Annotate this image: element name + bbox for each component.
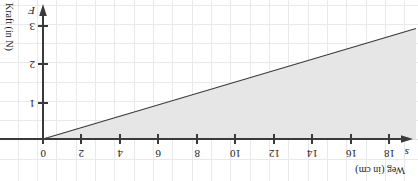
x-axis-variable-label: s (405, 147, 409, 158)
x-tick-label-10: 10 (230, 148, 241, 159)
x-tick-label-18: 18 (384, 148, 395, 159)
y-tick-label-2: 2 (30, 59, 36, 70)
y-axis-variable-label: F (28, 5, 35, 16)
x-tick-label-0: 0 (41, 148, 47, 159)
x-axis-title: Weg (in cm) (355, 165, 405, 175)
x-tick-label-8: 8 (195, 148, 201, 159)
x-tick-label-6: 6 (156, 148, 162, 159)
y-axis-title: Kraft (in N) (4, 3, 14, 51)
x-tick-label-2: 2 (79, 148, 85, 159)
y-tick-label-3: 3 (30, 21, 36, 32)
x-tick-label-16: 16 (346, 148, 357, 159)
chart-figure: 0 2 4 6 8 10 12 14 16 18 1 2 3 s F Weg (… (0, 0, 418, 181)
x-tick-label-4: 4 (118, 148, 124, 159)
axis-vertical-arrowhead (39, 4, 47, 16)
y-tick-label-1: 1 (30, 98, 36, 109)
rotated-chart-canvas: 0 2 4 6 8 10 12 14 16 18 1 2 3 s F Weg (… (0, 0, 418, 181)
x-tick-label-12: 12 (269, 148, 280, 159)
x-tick-label-14: 14 (307, 148, 318, 159)
